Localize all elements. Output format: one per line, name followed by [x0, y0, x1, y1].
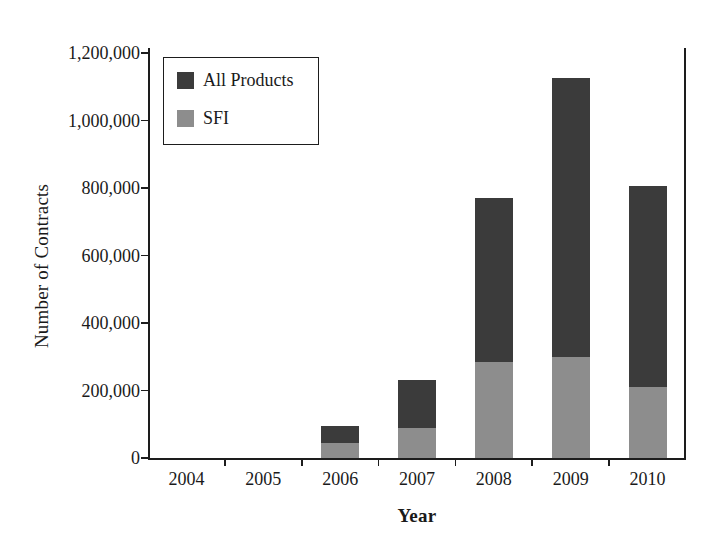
y-axis-tick-label: 600,000	[28, 247, 140, 265]
bar-segment-all-products	[629, 186, 667, 387]
x-axis-tick-mark	[455, 458, 457, 466]
y-axis-tick-mark	[141, 390, 149, 392]
y-axis-tick-mark	[141, 120, 149, 122]
y-axis-tick-label: 0	[28, 449, 140, 467]
x-axis-line	[148, 458, 686, 460]
legend-item-all-products: All Products	[177, 71, 294, 89]
bar-segment-sfi	[398, 428, 436, 458]
y-axis-tick-label: 400,000	[28, 314, 140, 332]
bar-segment-all-products	[475, 198, 513, 362]
bar-2010	[629, 186, 667, 458]
x-axis-tick-labels: 2004200520062007200820092010	[148, 470, 686, 496]
x-axis-tick-mark	[301, 458, 303, 466]
y-axis-tick-mark	[141, 255, 149, 257]
chart-legend: All ProductsSFI	[163, 57, 319, 145]
x-axis-tick-mark	[608, 458, 610, 466]
x-axis-tick-label: 2010	[603, 470, 693, 488]
bar-2006	[321, 426, 359, 458]
bar-2008	[475, 198, 513, 458]
y-axis-line	[148, 48, 150, 458]
y-axis-tick-mark	[141, 52, 149, 54]
y-axis-tick-mark	[141, 187, 149, 189]
bar-segment-sfi	[321, 443, 359, 458]
bar-2009	[552, 78, 590, 458]
bar-chart: Number of Contracts 0200,000400,000600,0…	[0, 0, 711, 544]
bar-segment-all-products	[552, 78, 590, 356]
y-axis-tick-label: 800,000	[28, 179, 140, 197]
legend-swatch-icon	[177, 72, 194, 89]
legend-label: SFI	[203, 109, 229, 127]
y-axis-tick-label: 1,200,000	[28, 44, 140, 62]
x-axis-title: Year	[148, 505, 686, 527]
y-axis-tick-labels: 0200,000400,000600,000800,0001,000,0001,…	[28, 0, 140, 544]
bar-segment-sfi	[629, 387, 667, 458]
y-axis-tick-label: 1,000,000	[28, 112, 140, 130]
plot-right-border	[684, 48, 686, 458]
x-axis-tick-mark	[531, 458, 533, 466]
legend-label: All Products	[203, 71, 294, 89]
legend-item-sfi: SFI	[177, 109, 229, 127]
x-axis-tick-mark	[224, 458, 226, 466]
bar-segment-sfi	[552, 357, 590, 458]
x-axis-tick-mark	[378, 458, 380, 466]
y-axis-tick-label: 200,000	[28, 382, 140, 400]
y-axis-tick-mark	[141, 457, 149, 459]
bar-segment-all-products	[321, 426, 359, 443]
bar-segment-all-products	[398, 380, 436, 427]
bar-2007	[398, 380, 436, 458]
y-axis-tick-mark	[141, 322, 149, 324]
legend-swatch-icon	[177, 110, 194, 127]
bar-segment-sfi	[475, 362, 513, 458]
